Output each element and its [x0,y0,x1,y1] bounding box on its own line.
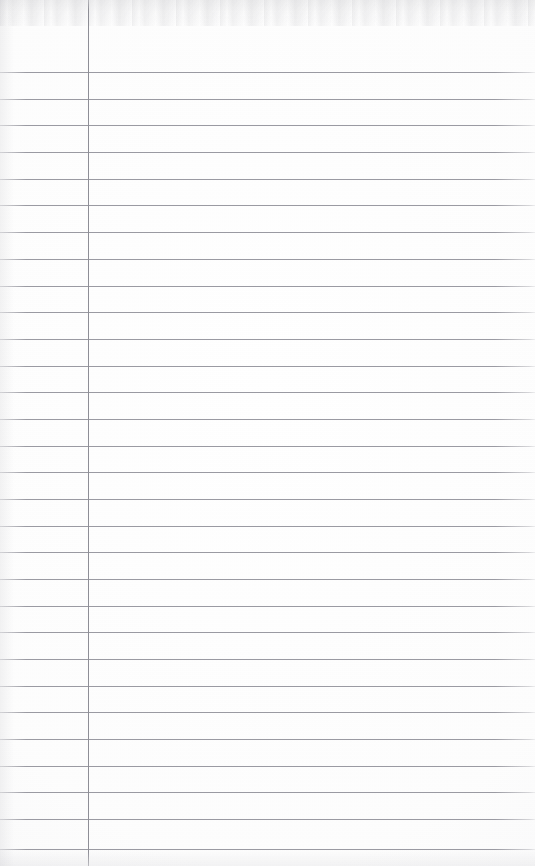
writing-area[interactable] [89,0,535,866]
notebook-page [0,0,535,866]
